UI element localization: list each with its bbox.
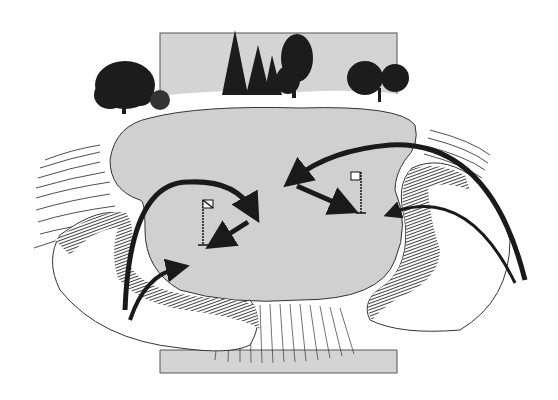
- golf-green-illustration: golf green with surrounding sand bunkers…: [0, 0, 558, 400]
- illustration-svg: [0, 0, 558, 400]
